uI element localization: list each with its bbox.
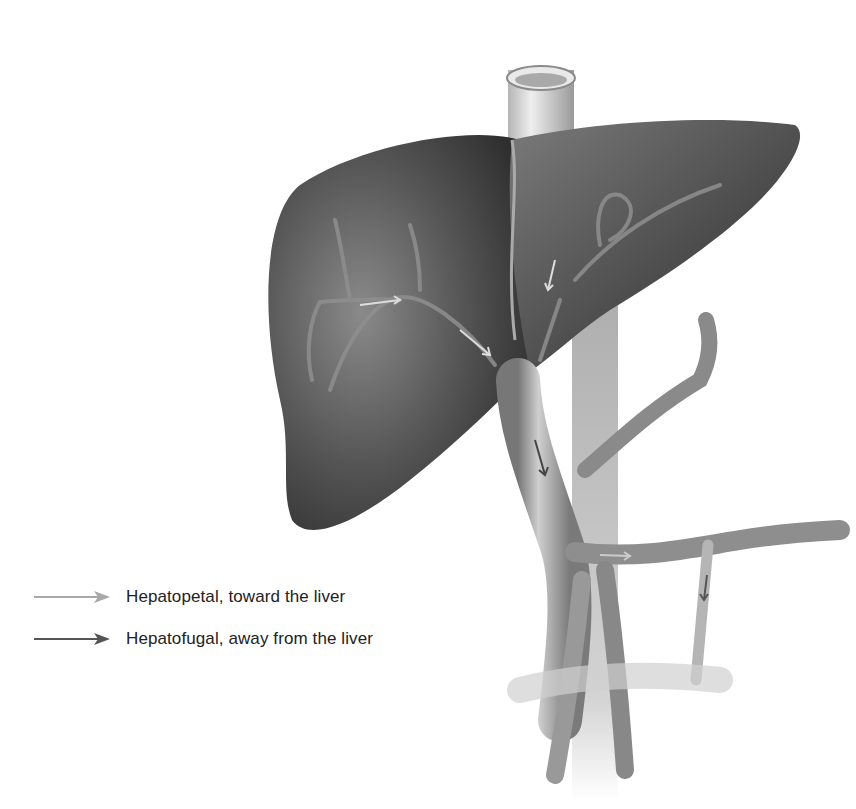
arrow-right-icon — [34, 590, 110, 604]
legend-item-hepatofugal: Hepatofugal, away from the liver — [34, 624, 373, 654]
right-lobe — [268, 135, 533, 530]
legend-label: Hepatopetal, toward the liver — [126, 587, 345, 607]
legend-label: Hepatofugal, away from the liver — [126, 629, 373, 649]
arrow-right-icon — [34, 632, 110, 646]
inferior-mesenteric-vein — [696, 545, 708, 680]
liver-vasculature-illustration — [0, 0, 856, 809]
left-lobe — [510, 120, 800, 372]
legend: Hepatopetal, toward the liver Hepatofuga… — [34, 582, 373, 666]
legend-item-hepatopetal: Hepatopetal, toward the liver — [34, 582, 373, 612]
